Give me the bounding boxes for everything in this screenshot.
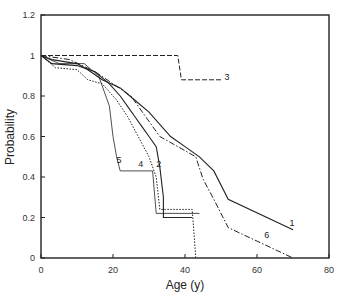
y-axis-label: Probability [3,109,17,165]
x-tick-label: 80 [324,265,334,275]
curve-label-5: 5 [117,155,122,165]
survival-chart: 02040608000.20.40.60.811.2123456 Age (y)… [0,0,339,297]
x-tick-label: 40 [180,265,190,275]
x-tick-label: 20 [108,265,118,275]
y-tick-label: 0.6 [22,132,35,142]
curve-label-1: 1 [289,218,294,228]
curve-label-2: 2 [156,159,161,169]
x-tick-label: 0 [38,265,43,275]
x-axis-label: Age (y) [166,278,205,292]
y-tick-label: 1 [30,51,35,61]
y-tick-label: 1.2 [22,10,35,20]
curve-label-4: 4 [138,159,143,169]
curve-6 [41,56,293,259]
curve-label-6: 6 [264,230,269,240]
curve-5 [41,56,199,214]
y-tick-label: 0.8 [22,91,35,101]
y-tick-label: 0.2 [22,213,35,223]
curve-1 [41,56,293,230]
plot-area: 02040608000.20.40.60.811.2123456 [22,10,334,275]
curve-label-3: 3 [225,72,230,82]
curve-2 [41,56,192,218]
y-tick-label: 0 [30,253,35,263]
x-tick-label: 60 [252,265,262,275]
plot-frame [41,15,329,258]
y-tick-label: 0.4 [22,172,35,182]
